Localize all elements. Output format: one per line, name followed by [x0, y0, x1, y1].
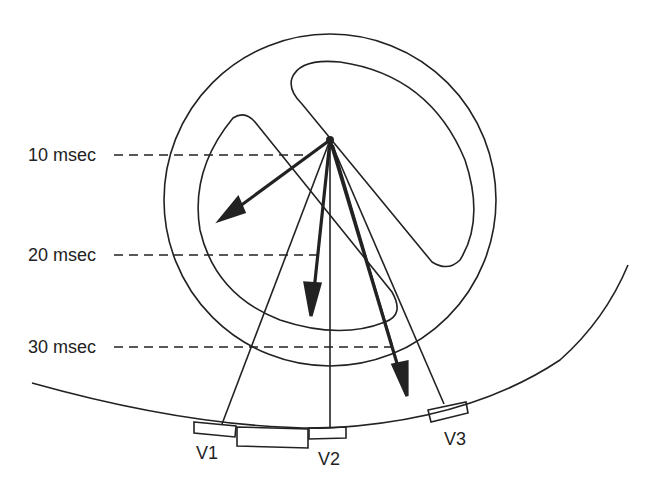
- heart-vector-diagram: 10 msec 20 msec 30 msec V1 V2 V3: [0, 0, 646, 484]
- label-20ms: 20 msec: [28, 245, 96, 265]
- vector-10ms: [232, 140, 330, 212]
- arrowhead-10ms: [220, 198, 244, 220]
- vector-origin: [326, 136, 334, 144]
- electrode-v1: [194, 422, 236, 437]
- label-v1: V1: [196, 443, 218, 463]
- label-v2: V2: [318, 449, 340, 469]
- arrowhead-30ms: [393, 362, 407, 396]
- left-ventricle-cavity: [198, 115, 397, 331]
- label-v3: V3: [444, 429, 466, 449]
- label-30ms: 30 msec: [28, 337, 96, 357]
- label-10ms: 10 msec: [28, 145, 96, 165]
- vector-aux: [333, 145, 392, 345]
- electrode-center: [237, 427, 308, 448]
- arrowhead-20ms: [305, 283, 320, 316]
